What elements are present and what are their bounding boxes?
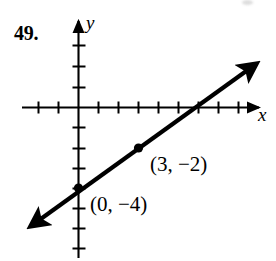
coordinate-plane-svg bbox=[0, 0, 276, 261]
data-point-3-minus2 bbox=[134, 143, 143, 152]
plotted-line bbox=[31, 64, 256, 226]
data-point-0-minus4 bbox=[74, 183, 83, 192]
graph-figure: 49. y x (3, −2) (0, −4) bbox=[0, 0, 276, 261]
